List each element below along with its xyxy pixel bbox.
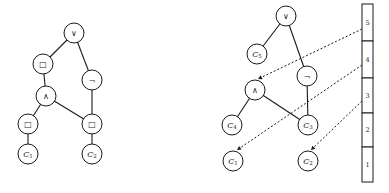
node-label: ¬ <box>304 72 311 81</box>
left-tree-nodes: ∨□¬∧□□C1C2 <box>18 23 102 164</box>
node-label: □ <box>39 60 47 69</box>
stack: 54321 <box>362 4 373 182</box>
stack-cell-label: 3 <box>365 92 369 100</box>
node-label: ∧ <box>252 86 258 95</box>
stack-cell-label: 1 <box>365 161 369 169</box>
node-and: ∧ <box>36 86 56 106</box>
right-tree-edges <box>232 16 308 125</box>
diagram-canvas: ∨□¬∧□□C1C2 ∨C5¬∧C4C3C1C2 54321 <box>0 0 389 193</box>
node-box3: □ <box>82 114 102 134</box>
node-box2: □ <box>18 114 38 134</box>
node-label: ∨ <box>283 12 289 21</box>
stack-cell-2: 2 <box>362 113 373 147</box>
stack-cell-label: 2 <box>365 126 369 134</box>
node-label: ∧ <box>43 92 49 101</box>
pointer-line-3 <box>311 101 362 150</box>
node-label: ¬ <box>89 76 96 85</box>
node-or: ∨ <box>276 6 296 26</box>
node-c1: C1 <box>18 144 38 164</box>
stack-cell-label: 4 <box>365 56 369 64</box>
node-not: ¬ <box>82 70 102 90</box>
node-c1: C1 <box>223 151 243 171</box>
stack-cell-4: 4 <box>362 41 373 78</box>
node-label: □ <box>24 120 32 129</box>
arrowhead-icon <box>258 75 263 79</box>
right-tree-nodes: ∨C5¬∧C4C3C1C2 <box>222 6 318 171</box>
node-c2: C2 <box>82 144 102 164</box>
stack-cell-1: 1 <box>362 147 373 182</box>
node-c2: C2 <box>298 151 318 171</box>
stack-cell-5: 5 <box>362 4 373 41</box>
node-label: ∨ <box>71 29 77 38</box>
stack-cell-3: 3 <box>362 78 373 113</box>
node-c5: C5 <box>247 44 267 64</box>
stack-cell-label: 5 <box>365 19 369 27</box>
node-c3: C3 <box>298 115 318 135</box>
node-not: ¬ <box>297 66 317 86</box>
node-c4: C4 <box>222 115 242 135</box>
node-and: ∧ <box>245 80 265 100</box>
node-box1: □ <box>33 54 53 74</box>
node-or: ∨ <box>64 23 84 43</box>
arrowhead-icon <box>237 146 242 150</box>
node-label: □ <box>88 120 96 129</box>
